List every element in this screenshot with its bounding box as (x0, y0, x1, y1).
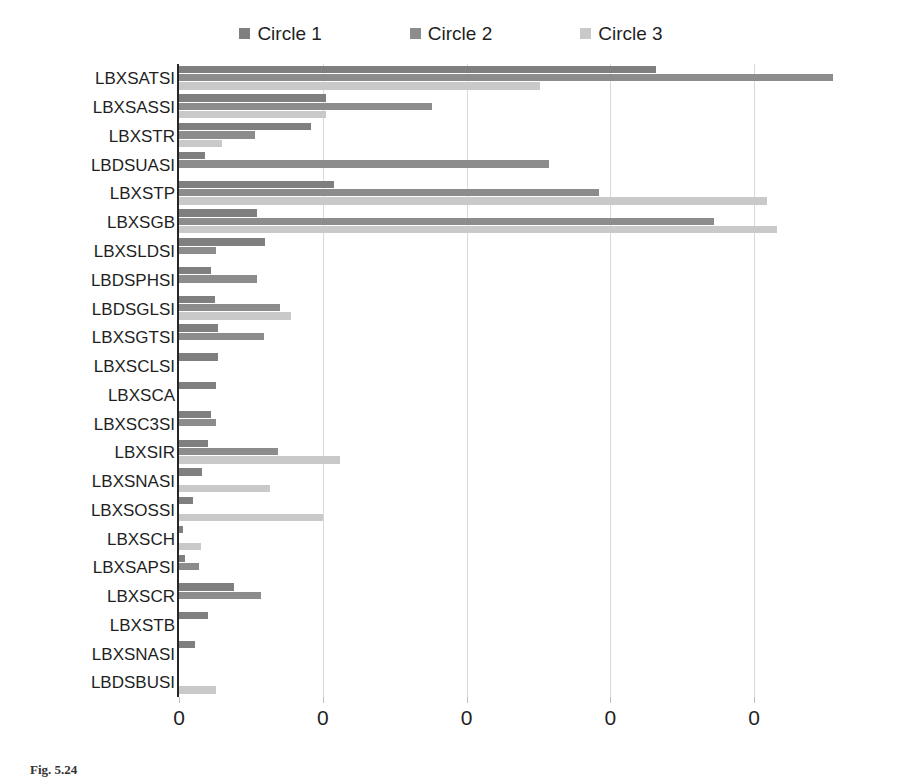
bar-segment (179, 555, 185, 562)
chart-category-row: LBXSGTSI (0, 323, 902, 352)
y-axis-category-label: LBXSCR (15, 588, 183, 605)
legend-item-label: Circle 3 (598, 24, 662, 43)
chart-category-row: LBXSOSSI (0, 495, 902, 524)
bar-group (179, 122, 898, 151)
chart-category-row: LBXSCH (0, 524, 902, 553)
y-axis-category-label: LBDSPHSI (15, 271, 183, 288)
bar-group (179, 668, 898, 697)
chart-category-row: LBDSGLSI (0, 294, 902, 323)
chart-category-row: LBXSLDSI (0, 237, 902, 266)
bar-segment (179, 592, 261, 599)
y-axis-category-label: LBXSOSSI (15, 501, 183, 518)
y-axis-category-label: LBXSGB (15, 214, 183, 231)
legend-item-3[interactable]: Circle 3 (580, 24, 662, 43)
x-axis-tick-label: 0 (317, 707, 329, 728)
bar-segment (179, 267, 211, 274)
y-axis-category-label: LBDSGLSI (15, 300, 183, 317)
bar-group (179, 524, 898, 553)
bar-group (179, 352, 898, 381)
chart-legend: Circle 1Circle 2Circle 3 (0, 18, 902, 48)
y-axis-category-label: LBXSLDSI (15, 242, 183, 259)
bar-segment (179, 238, 265, 245)
x-axis-tick-label: 0 (461, 707, 473, 728)
x-axis-labels: 00000 (0, 703, 902, 739)
bar-segment (179, 583, 234, 590)
bar-segment (179, 160, 549, 167)
y-axis-category-label: LBXSTB (15, 616, 183, 633)
chart-category-row: LBDSBUSI (0, 668, 902, 697)
bar-segment (179, 686, 216, 693)
bar-group (179, 611, 898, 640)
legend-item-2[interactable]: Circle 2 (410, 24, 492, 43)
chart-category-row: LBXSNASI (0, 639, 902, 668)
bar-group (179, 294, 898, 323)
chart-category-row: LBXSIR (0, 438, 902, 467)
bar-segment (179, 247, 216, 254)
chart-category-row: LBXSGB (0, 208, 902, 237)
legend-swatch-icon (410, 28, 421, 39)
bar-segment (179, 181, 334, 188)
bar-segment (179, 497, 193, 504)
bar-segment (179, 103, 432, 110)
bar-group (179, 438, 898, 467)
bar-segment (179, 543, 201, 550)
bar-segment (179, 123, 311, 130)
bar-group (179, 265, 898, 294)
legend-item-1[interactable]: Circle 1 (239, 24, 321, 43)
chart-category-row: LBXSCLSI (0, 352, 902, 381)
bar-segment (179, 448, 278, 455)
bar-segment (179, 612, 208, 619)
chart-category-row: LBXSCA (0, 380, 902, 409)
bar-group (179, 553, 898, 582)
bar-segment (179, 82, 540, 89)
y-axis-category-label: LBXSATSI (15, 70, 183, 87)
bar-group (179, 467, 898, 496)
bar-chart: Circle 1Circle 2Circle 3 LBXSATSILBXSASS… (0, 0, 902, 780)
bar-segment (179, 304, 280, 311)
bar-segment (179, 333, 264, 340)
legend-item-label: Circle 2 (428, 24, 492, 43)
bar-segment (179, 456, 340, 463)
chart-plot-rows: LBXSATSILBXSASSILBXSTRLBDSUASILBXSTPLBXS… (0, 64, 902, 697)
chart-category-row: LBDSPHSI (0, 265, 902, 294)
bar-segment (179, 197, 767, 204)
chart-category-row: LBXSASSI (0, 93, 902, 122)
bar-segment (179, 152, 205, 159)
bar-segment (179, 485, 270, 492)
bar-segment (179, 641, 195, 648)
chart-category-row: LBXSTP (0, 179, 902, 208)
bar-segment (179, 468, 202, 475)
bar-segment (179, 440, 208, 447)
bar-group (179, 323, 898, 352)
figure-caption: Fig. 5.24 (30, 762, 530, 778)
bar-segment (179, 324, 218, 331)
bar-segment (179, 514, 323, 521)
chart-category-row: LBDSUASI (0, 150, 902, 179)
bar-segment (179, 226, 777, 233)
bar-segment (179, 275, 257, 282)
y-axis-category-label: LBXSNASI (15, 645, 183, 662)
bar-group (179, 93, 898, 122)
bar-group (179, 495, 898, 524)
chart-category-row: LBXSATSI (0, 64, 902, 93)
bar-group (179, 208, 898, 237)
bar-segment (179, 419, 216, 426)
bar-segment (179, 353, 218, 360)
x-axis-tick-label: 0 (173, 707, 185, 728)
chart-category-row: LBXSTB (0, 611, 902, 640)
y-axis-category-label: LBXSNASI (15, 473, 183, 490)
y-axis-category-label: LBXSIR (15, 444, 183, 461)
bar-group (179, 409, 898, 438)
bar-group (179, 639, 898, 668)
bar-group (179, 179, 898, 208)
bar-segment (179, 563, 199, 570)
y-axis-category-label: LBXSCA (15, 386, 183, 403)
y-axis-category-label: LBXSCLSI (15, 358, 183, 375)
bar-segment (179, 66, 656, 73)
legend-item-label: Circle 1 (257, 24, 321, 43)
bar-segment (179, 140, 222, 147)
bar-segment (179, 312, 291, 319)
bar-segment (179, 189, 599, 196)
y-axis-category-label: LBXSC3SI (15, 415, 183, 432)
bar-segment (179, 74, 833, 81)
